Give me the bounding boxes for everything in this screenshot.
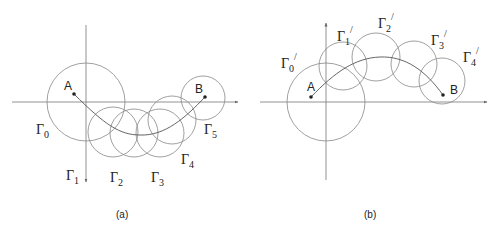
label-gamma1-a: Γ1 bbox=[66, 168, 79, 186]
label-gamma4-b: Γ4/ bbox=[463, 45, 479, 68]
svg-text:Γ4/: Γ4/ bbox=[463, 45, 479, 68]
label-B-b: B bbox=[450, 83, 458, 97]
point-B-b bbox=[441, 93, 445, 97]
label-gamma4-a: Γ4 bbox=[181, 152, 194, 170]
point-A-a bbox=[72, 92, 76, 96]
svg-text:Γ5: Γ5 bbox=[204, 122, 217, 140]
caption-b: (b) bbox=[364, 209, 376, 220]
label-gamma2-a: Γ2 bbox=[110, 170, 123, 188]
svg-text:Γ3: Γ3 bbox=[151, 170, 164, 188]
label-gamma5-a: Γ5 bbox=[204, 122, 217, 140]
svg-text:Γ2/: Γ2/ bbox=[378, 11, 394, 34]
diagram-canvas: A B Γ0 Γ1 Γ2 Γ3 Γ4 Γ5 (a) bbox=[0, 0, 493, 237]
svg-text:Γ3/: Γ3/ bbox=[431, 28, 447, 51]
svg-text:Γ0: Γ0 bbox=[36, 122, 49, 140]
svg-text:Γ2: Γ2 bbox=[110, 170, 123, 188]
label-gamma3-b: Γ3/ bbox=[431, 28, 447, 51]
circle-gamma3-a bbox=[136, 109, 184, 157]
svg-text:Γ4: Γ4 bbox=[181, 152, 194, 170]
point-A-b bbox=[309, 95, 313, 99]
circle-gamma4-a bbox=[148, 96, 196, 144]
label-gamma0-b: Γ0/ bbox=[281, 51, 297, 74]
label-gamma2-b: Γ2/ bbox=[378, 11, 394, 34]
label-B-a: B bbox=[195, 82, 203, 96]
panel-a: A B Γ0 Γ1 Γ2 Γ3 Γ4 Γ5 (a) bbox=[12, 25, 238, 220]
label-gamma3-a: Γ3 bbox=[151, 170, 164, 188]
circle-gamma2-a bbox=[110, 109, 158, 157]
caption-a: (a) bbox=[116, 209, 128, 220]
circle-gamma4-b bbox=[419, 58, 465, 104]
point-B-a bbox=[203, 95, 207, 99]
label-A-a: A bbox=[64, 79, 72, 93]
panel-b: A B Γ0/ Γ1/ Γ2/ Γ3/ Γ4/ (b) bbox=[260, 11, 487, 220]
svg-text:Γ0/: Γ0/ bbox=[281, 51, 297, 74]
svg-text:Γ1: Γ1 bbox=[66, 168, 79, 186]
label-A-b: A bbox=[307, 80, 315, 94]
label-gamma0-a: Γ0 bbox=[36, 122, 49, 140]
